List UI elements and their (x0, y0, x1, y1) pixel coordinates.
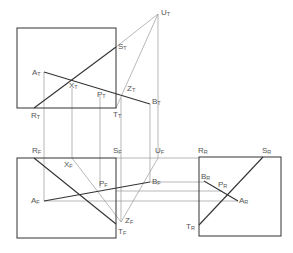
point-label-at: AT (32, 69, 41, 78)
view-frames (17, 28, 281, 238)
point-label-sr: SR (262, 147, 271, 156)
point-label-rt: RT (31, 112, 40, 121)
view-subscript: F (104, 182, 107, 188)
diagram-drawing (0, 0, 293, 253)
view-subscript: F (69, 163, 72, 169)
view-subscript: T (118, 113, 121, 119)
point-label-tt: TT (113, 111, 121, 120)
view-subscript: T (157, 100, 160, 106)
view-subscript: R (223, 183, 227, 189)
view-subscript: R (204, 149, 208, 155)
view-subscript: F (38, 149, 41, 155)
object-lines (34, 47, 263, 225)
construction-lines (44, 14, 238, 222)
view-subscript: R (267, 149, 271, 155)
view-subscript: T (102, 93, 105, 99)
point-label-rr: RR (198, 147, 208, 156)
point-label-st: ST (118, 43, 127, 52)
point-label-pr: PR (218, 181, 227, 190)
view-subscript: R (206, 175, 210, 181)
line-RF-TF (34, 158, 116, 224)
view-subscript: T (37, 71, 40, 77)
view-subscript: R (244, 199, 248, 205)
view-subscript: T (37, 114, 40, 120)
view-subscript: F (118, 149, 121, 155)
view-subscript: T (132, 87, 135, 93)
point-label-zt: ZT (127, 85, 135, 94)
view-subscript: F (130, 219, 133, 225)
point-label-pt: PT (97, 91, 106, 100)
projection-diagram: UTSTATXTZTPTBTRTTTRFSFUFRRSRXFBFBRPFPRAF… (0, 0, 293, 253)
view-subscript: T (74, 84, 77, 90)
point-label-ut: UT (161, 9, 170, 18)
view-subscript: F (161, 149, 164, 155)
point-label-sf: SF (113, 147, 122, 156)
line-AF-BF (44, 182, 150, 201)
point-label-br: BR (201, 173, 210, 182)
point-label-bt: BT (152, 98, 161, 107)
point-label-uf: UF (155, 147, 164, 156)
view-subscript: F (157, 180, 160, 186)
point-label-xt: XT (69, 82, 78, 91)
point-label-ar: AR (239, 197, 248, 206)
view-subscript: F (123, 230, 126, 236)
point-label-tf: TF (118, 228, 126, 237)
point-label-rf: RF (32, 147, 41, 156)
view-subscript: R (191, 225, 195, 231)
point-label-xf: XF (64, 161, 73, 170)
view-subscript: T (123, 45, 126, 51)
view-subscript: T (167, 11, 170, 17)
point-label-af: AF (31, 197, 40, 206)
view-subscript: F (36, 199, 39, 205)
point-label-tr: TR (186, 223, 195, 232)
point-label-bf: BF (152, 178, 161, 187)
point-label-pf: PF (99, 180, 108, 189)
point-label-zf: ZF (125, 217, 133, 226)
